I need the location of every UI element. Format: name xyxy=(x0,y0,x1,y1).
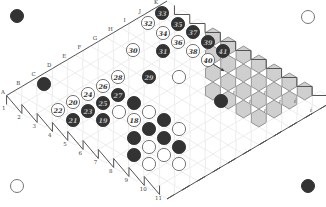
cell-mark: i xyxy=(294,97,296,104)
hex-cell-F10[interactable] xyxy=(221,127,236,145)
hex-cell-K6[interactable] xyxy=(236,46,251,64)
move-number: 30 xyxy=(128,47,138,55)
hex-cell-C2[interactable] xyxy=(52,82,67,100)
move-number: 37 xyxy=(188,29,198,37)
hex-cell-K9[interactable] xyxy=(282,73,297,91)
move-number: 40 xyxy=(203,57,213,65)
hex-cell-F7[interactable] xyxy=(175,100,190,118)
move-number: 36 xyxy=(173,39,183,47)
white-stone: 36 xyxy=(171,35,184,48)
hex-cell-A3[interactable] xyxy=(37,109,52,127)
hex-cell-K10[interactable] xyxy=(297,82,312,100)
column-label: B xyxy=(16,80,20,86)
column-label: D xyxy=(47,62,52,68)
hex-cell-K7[interactable] xyxy=(251,55,266,73)
hex-cell-D10[interactable] xyxy=(190,145,205,163)
hex-cell-B2[interactable] xyxy=(37,91,52,109)
row-label: 9 xyxy=(124,177,128,183)
hex-cell-G10[interactable] xyxy=(236,118,251,136)
hex-cell-F5[interactable] xyxy=(144,82,159,100)
hex-cell-A6[interactable] xyxy=(83,136,98,154)
move-number: 41 xyxy=(218,48,227,56)
black-stone: 31 xyxy=(156,44,169,57)
move-number: 32 xyxy=(143,20,153,28)
white-stone xyxy=(157,148,170,161)
row-label: 3 xyxy=(33,123,37,129)
black-stone xyxy=(172,140,185,153)
hex-board[interactable]: ABCDEFGHIJK1234567891011 iiiiiii 3332353… xyxy=(0,0,326,207)
white-stone: 32 xyxy=(141,16,154,29)
hex-cell-E2[interactable] xyxy=(83,64,98,82)
hex-cell-A8[interactable] xyxy=(114,154,129,172)
black-stone: 23 xyxy=(81,104,94,117)
hex-cell-G9[interactable] xyxy=(221,109,236,127)
white-stone: 28 xyxy=(111,70,124,83)
hex-cell-J7[interactable] xyxy=(236,64,251,82)
move-number: 22 xyxy=(52,107,63,115)
cell-mark: i xyxy=(279,97,281,104)
corner-black-top-left xyxy=(11,10,24,23)
hex-cell-A2[interactable] xyxy=(22,100,37,118)
black-stone: 33 xyxy=(155,6,168,19)
cell-mark: i xyxy=(233,88,235,95)
column-label: G xyxy=(93,35,97,41)
corner-black-bottom-right xyxy=(302,180,315,193)
white-stone xyxy=(142,157,155,170)
black-stone xyxy=(127,131,140,144)
black-stone: 35 xyxy=(171,17,184,30)
cell-mark: i xyxy=(249,97,251,104)
hex-cell-D2[interactable] xyxy=(68,73,83,91)
black-stone: 25 xyxy=(96,96,109,109)
hex-cell-F6[interactable] xyxy=(160,91,175,109)
move-number: 38 xyxy=(188,48,198,56)
black-stone xyxy=(142,122,155,135)
black-stone xyxy=(157,131,170,144)
black-stone xyxy=(37,77,50,90)
white-stone xyxy=(142,140,155,153)
row-label: 11 xyxy=(155,195,162,201)
white-stone: 40 xyxy=(201,53,214,66)
move-number: 20 xyxy=(67,99,78,107)
column-label: K xyxy=(154,0,159,5)
black-stone xyxy=(157,113,170,126)
hex-cell-K8[interactable] xyxy=(267,64,282,82)
move-number: 23 xyxy=(82,108,93,116)
move-number: 31 xyxy=(158,48,167,56)
hex-cell-F8[interactable] xyxy=(190,109,205,127)
black-stone: 41 xyxy=(216,44,229,57)
move-number: 19 xyxy=(98,117,108,125)
move-number: 35 xyxy=(173,21,183,29)
hex-cell-G6[interactable] xyxy=(175,82,190,100)
move-number: 39 xyxy=(203,39,213,47)
hex-cell-E10[interactable] xyxy=(205,136,220,154)
row-label: 7 xyxy=(94,159,98,165)
hex-cell-B7[interactable] xyxy=(114,136,129,154)
black-stone: 39 xyxy=(201,35,214,48)
hex-cell-C6[interactable] xyxy=(114,118,129,136)
hex-cell-A7[interactable] xyxy=(98,145,113,163)
hex-cell-F9[interactable] xyxy=(205,118,220,136)
cell-mark: i xyxy=(264,106,266,113)
hex-cell-F2[interactable] xyxy=(98,55,113,73)
black-stone: 27 xyxy=(111,88,124,101)
hex-cell-F4[interactable] xyxy=(129,73,144,91)
hex-cell-A4[interactable] xyxy=(52,118,67,136)
white-stone xyxy=(172,70,185,83)
move-number: 26 xyxy=(97,83,108,91)
hex-cell-B5[interactable] xyxy=(83,118,98,136)
move-number: 29 xyxy=(143,74,154,82)
hex-cell-H6[interactable] xyxy=(190,73,205,91)
hex-cell-B6[interactable] xyxy=(98,127,113,145)
hex-cell-A9[interactable] xyxy=(129,163,144,181)
white-stone xyxy=(112,105,125,118)
row-label: 2 xyxy=(17,114,21,120)
hex-cell-G7[interactable] xyxy=(190,91,205,109)
row-label: 1 xyxy=(2,105,6,111)
column-label: A xyxy=(0,89,6,95)
cell-mark: i xyxy=(264,88,266,95)
move-number: 24 xyxy=(82,91,93,99)
hex-cell-E9[interactable] xyxy=(190,127,205,145)
hex-cell-A5[interactable] xyxy=(68,127,83,145)
hex-cell-G3[interactable] xyxy=(129,55,144,73)
move-number: 27 xyxy=(112,92,123,100)
